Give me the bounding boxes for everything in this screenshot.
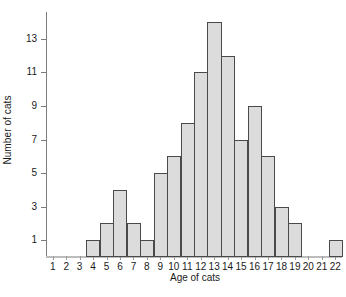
plot-area: [46, 12, 342, 257]
y-axis-tick-label: 5: [8, 168, 37, 178]
x-axis-tick-label: 15: [234, 261, 247, 272]
x-axis-tick-label: 19: [288, 261, 301, 272]
x-axis-tick-label: 12: [194, 261, 207, 272]
histogram-bar: [127, 223, 141, 257]
histogram-bar: [261, 156, 275, 257]
y-axis-title: Number of cats: [2, 60, 16, 200]
histogram-bar: [207, 22, 221, 257]
x-axis-tick-label: 2: [59, 261, 72, 272]
histogram-figure: Number of cats 135791113 123456789101112…: [0, 0, 346, 297]
x-axis-tick-label: 21: [315, 261, 328, 272]
x-axis-tick-label: 9: [154, 261, 167, 272]
x-axis-tick-label: 6: [113, 261, 126, 272]
x-axis-tick-label: 7: [127, 261, 140, 272]
histogram-bar: [288, 223, 302, 257]
histogram-bar: [113, 190, 127, 257]
x-axis-tick-label: 16: [248, 261, 261, 272]
histogram-bar: [181, 123, 195, 257]
x-axis-tick-label: 4: [86, 261, 99, 272]
x-axis-tick-label: 13: [207, 261, 220, 272]
x-axis-tick-label: 18: [275, 261, 288, 272]
histogram-bar: [140, 240, 154, 257]
histogram-bar: [275, 207, 289, 257]
x-axis-tick-label: 22: [329, 261, 342, 272]
histogram-bar: [86, 240, 100, 257]
histogram-bar: [234, 140, 248, 257]
y-axis-tick-label: 7: [8, 135, 37, 145]
y-axis-tick-label: 13: [8, 34, 37, 44]
histogram-bar: [194, 72, 208, 257]
x-axis-tick-label: 1: [46, 261, 59, 272]
x-axis-tick-label: 11: [181, 261, 194, 272]
histogram-bar: [167, 156, 181, 257]
x-axis-tick-label: 3: [73, 261, 86, 272]
histogram-bar: [248, 106, 262, 257]
x-axis-tick-label: 8: [140, 261, 153, 272]
histogram-bar: [221, 56, 235, 257]
x-axis-tick-label: 14: [221, 261, 234, 272]
x-axis-tick-label: 10: [167, 261, 180, 272]
x-axis-tick-label: 5: [100, 261, 113, 272]
x-axis-tick-label: 20: [302, 261, 315, 272]
x-axis-tick-label: 17: [261, 261, 274, 272]
histogram-bar: [329, 240, 343, 257]
histogram-bar: [100, 223, 114, 257]
y-axis-tick-label: 1: [8, 235, 37, 245]
y-axis-tick-label: 3: [8, 202, 37, 212]
histogram-bar: [154, 173, 168, 257]
x-axis-title: Age of cats: [48, 272, 342, 283]
y-axis-tick-label: 11: [8, 67, 37, 77]
y-axis-tick-label: 9: [8, 101, 37, 111]
